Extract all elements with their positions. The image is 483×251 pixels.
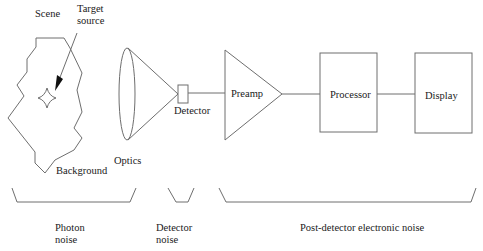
detector-element — [178, 85, 188, 103]
display-label: Display — [425, 90, 458, 102]
optics-lens — [119, 48, 135, 140]
optics-cone-bottom — [128, 94, 178, 140]
photon-noise-label-line2: noise — [55, 234, 77, 246]
target-source-label-line1: Target — [77, 3, 103, 15]
preamp-label: Preamp — [231, 88, 263, 100]
target-arrowhead-icon — [55, 75, 63, 91]
optics-cone-top — [128, 48, 178, 94]
target-source-label-line2: source — [77, 15, 104, 27]
photon-noise-bracket — [12, 188, 136, 202]
processor-label: Processor — [330, 89, 371, 101]
background-label: Background — [56, 165, 107, 177]
photon-noise-label-line1: Photon — [55, 222, 85, 234]
scene-background-shape — [8, 38, 82, 173]
detector-noise-label-line2: noise — [156, 234, 178, 246]
diagram-graphics — [0, 0, 483, 251]
post-detector-noise-label: Post-detector electronic noise — [300, 222, 424, 234]
detector-noise-bracket — [168, 188, 194, 202]
imaging-system-diagram: Scene Target source Background Optics De… — [0, 0, 483, 251]
scene-label: Scene — [35, 8, 60, 20]
post-detector-noise-bracket — [219, 188, 476, 202]
target-source-star-icon — [38, 88, 56, 108]
optics-label: Optics — [114, 155, 141, 167]
detector-noise-label-line1: Detector — [156, 222, 192, 234]
detector-label: Detector — [174, 105, 210, 117]
